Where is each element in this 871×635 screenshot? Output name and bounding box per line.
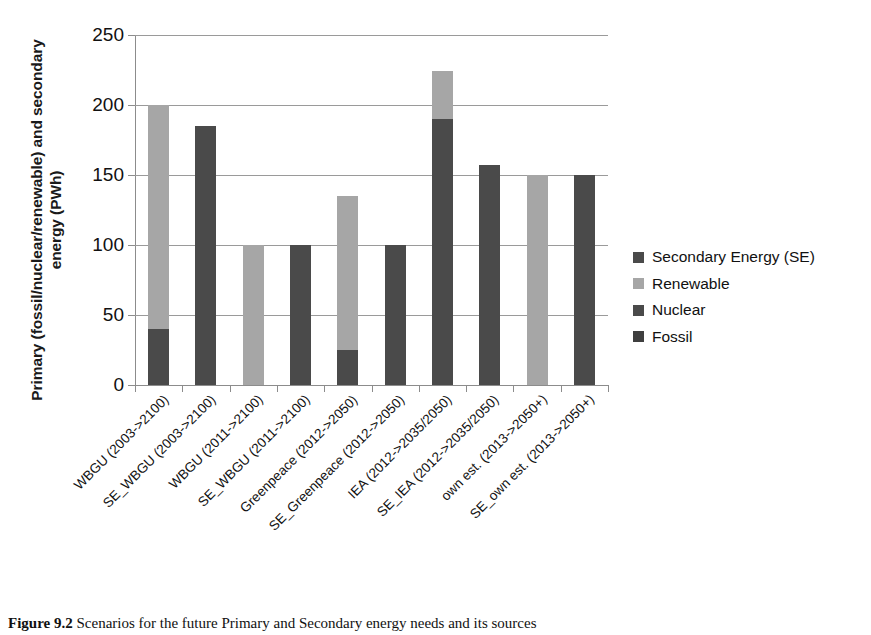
y-tick-label-50: 50 xyxy=(103,304,124,326)
bar-segment-fossil xyxy=(148,329,169,385)
figure-caption: Figure 9.2 Scenarios for the future Prim… xyxy=(8,614,868,634)
x-axis-label-4: SE_WBGU (2011->2100) xyxy=(195,392,313,510)
x-axis-label-3: WBGU (2011->2100) xyxy=(166,392,266,492)
x-axis-label-2: SE_WBGU (2003->2100) xyxy=(100,392,219,511)
legend-swatch-icon xyxy=(633,305,644,316)
figure-number: Figure 9.2 xyxy=(8,615,73,631)
y-tick-label-250: 250 xyxy=(92,24,124,46)
x-tick-mark-3 xyxy=(277,385,278,392)
x-tick-mark-4 xyxy=(324,385,325,392)
legend-swatch-icon xyxy=(633,278,644,289)
plot-area: 050100150200250 xyxy=(135,35,608,386)
y-tick-label-0: 0 xyxy=(113,374,124,396)
x-tick-mark-6 xyxy=(419,385,420,392)
bar-segment-secondary-energy-se xyxy=(479,165,500,385)
y-tick-label-150: 150 xyxy=(92,164,124,186)
bar-2 xyxy=(195,126,216,385)
x-tick-mark-8 xyxy=(513,385,514,392)
y-tick-label-200: 200 xyxy=(92,94,124,116)
x-axis-label-7: IEA (2012->2035/2050) xyxy=(345,392,455,502)
bar-segment-fossil xyxy=(337,350,358,385)
legend-item-3: Nuclear xyxy=(633,301,815,319)
bar-7 xyxy=(432,71,453,385)
y-tick-mark-200 xyxy=(128,105,135,106)
x-tick-mark-1 xyxy=(182,385,183,392)
x-axis-label-10: SE_own est. (2013->2050+) xyxy=(467,392,597,522)
bar-segment-secondary-energy-se xyxy=(195,126,216,385)
figure-9-2: Primary (fossil/nuclear/renewable) and s… xyxy=(0,0,871,635)
chart-legend: Secondary Energy (SE)RenewableNuclearFos… xyxy=(633,248,815,346)
bar-3 xyxy=(243,245,264,385)
bar-5 xyxy=(337,196,358,385)
x-tick-mark-2 xyxy=(230,385,231,392)
legend-label: Nuclear xyxy=(652,301,705,319)
bar-series-container xyxy=(135,35,608,386)
bar-segment-secondary-energy-se xyxy=(290,245,311,385)
x-axis-label-5: Greenpeace (2012->2050) xyxy=(237,392,360,515)
y-tick-mark-250 xyxy=(128,35,135,36)
bar-1 xyxy=(148,105,169,385)
legend-item-2: Renewable xyxy=(633,275,815,293)
y-axis-title: Primary (fossil/nuclear/renewable) and s… xyxy=(21,25,73,415)
bar-segment-fossil xyxy=(432,119,453,385)
bar-4 xyxy=(290,245,311,385)
legend-item-4: Fossil xyxy=(633,328,815,346)
legend-swatch-icon xyxy=(633,252,644,263)
bar-8 xyxy=(479,165,500,385)
x-axis-label-6: SE_Greenpeace (2012->2050) xyxy=(266,392,407,533)
x-tick-mark-10 xyxy=(608,385,609,392)
bar-segment-renewable xyxy=(243,245,264,385)
bar-segment-renewable xyxy=(148,105,169,329)
bar-segment-secondary-energy-se xyxy=(574,175,595,385)
legend-item-1: Secondary Energy (SE) xyxy=(633,248,815,266)
x-axis-label-9: own est. (2013->2050+) xyxy=(438,392,550,504)
legend-label: Fossil xyxy=(652,328,692,346)
y-tick-label-100: 100 xyxy=(92,234,124,256)
x-axis-label-1: WBGU (2003->2100) xyxy=(71,392,172,493)
x-tick-mark-9 xyxy=(561,385,562,392)
legend-label: Secondary Energy (SE) xyxy=(652,248,815,266)
x-tick-mark-7 xyxy=(466,385,467,392)
y-tick-mark-50 xyxy=(128,315,135,316)
legend-swatch-icon xyxy=(633,331,644,342)
bar-9 xyxy=(527,175,548,385)
bar-segment-renewable xyxy=(337,196,358,350)
bar-segment-renewable xyxy=(432,71,453,119)
bar-segment-renewable xyxy=(527,175,548,385)
bar-6 xyxy=(385,245,406,385)
legend-label: Renewable xyxy=(652,275,730,293)
y-tick-mark-0 xyxy=(128,385,135,386)
caption-text: Scenarios for the future Primary and Sec… xyxy=(76,615,536,631)
x-tick-mark-0 xyxy=(135,385,136,392)
bar-10 xyxy=(574,175,595,385)
y-tick-mark-150 xyxy=(128,175,135,176)
x-tick-mark-5 xyxy=(372,385,373,392)
x-axis-label-8: SE_IEA (2012->2035/2050) xyxy=(374,392,502,520)
y-tick-mark-100 xyxy=(128,245,135,246)
bar-segment-secondary-energy-se xyxy=(385,245,406,385)
